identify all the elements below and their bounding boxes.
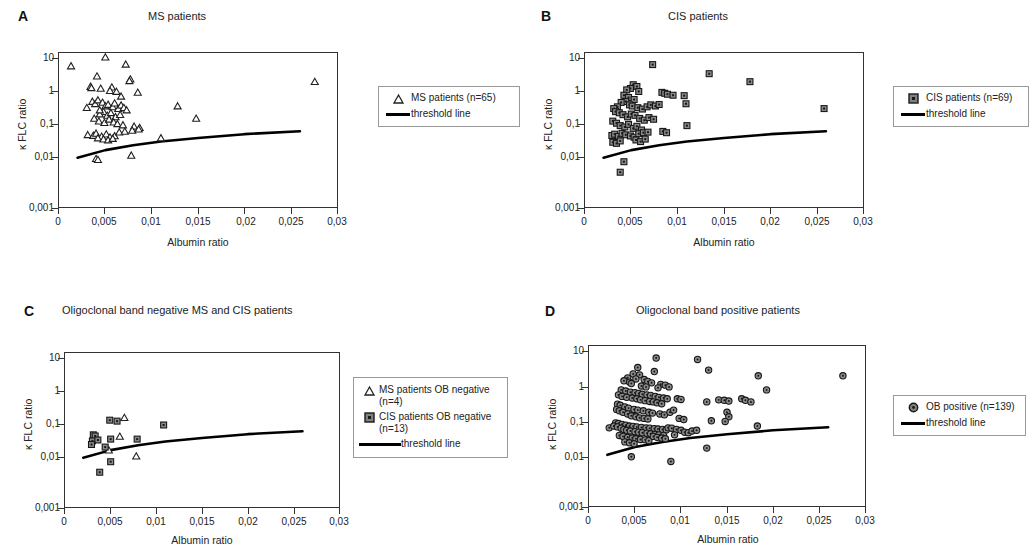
panel-c-x-axis-label: Albumin ratio [132,534,272,544]
panel-c-xtickmark-5 [294,508,295,514]
panel-d-xtick-0: 0 [573,515,603,526]
panel-d-title: Oligoclonal band positive patients [636,304,800,316]
panel-d-xtickmark-6 [865,507,866,513]
panel-d-xtick-3: 0,015 [707,515,747,526]
panel-a-xtickmark-5 [291,208,292,214]
panel-d-ytick-1: 1 [554,381,584,392]
panel-b-plot-area [584,52,864,208]
triangle-open-icon [385,92,411,105]
panel-b-xtick-2: 0,01 [659,216,695,227]
panel-a-xtick-6: 0,03 [319,216,355,227]
panel-d-xtickmark-3 [727,507,728,513]
legend-label: threshold line [411,108,470,120]
panel-d-x-axis-label: Albumin ratio [658,533,798,544]
legend-label: MS patients (n=65) [411,92,496,104]
panel-a-ytick-0: 10 [24,52,54,63]
panel-d-xtickmark-1 [634,507,635,513]
panel-a-xtick-0: 0 [43,216,73,227]
panel-a-plot-area [58,52,338,208]
panel-b-legend: CIS patients (n=69) threshold line [893,86,1029,127]
panel-d-plot-area [588,345,866,507]
panel-d-xtick-4: 0,02 [755,515,791,526]
panel-a-scatter [59,53,337,207]
legend-item: OB positive (n=139) [900,401,1019,414]
panel-b-xtick-0: 0 [569,216,599,227]
triangle-open-icon [359,384,379,397]
panel-c-xtickmark-3 [202,508,203,514]
panel-c-xtickmark-6 [339,508,340,514]
legend-label-cont: (n=13) [379,423,491,435]
panel-a-xtick-4: 0,02 [228,216,264,227]
panel-b-xtickmark-0 [584,208,585,214]
panel-b-letter: B [541,8,551,24]
panel-b-title: CIS patients [668,10,728,22]
threshold-line-icon [359,438,401,451]
legend-label: MS patients OB negative [379,384,490,396]
panel-c-xtick-2: 0,01 [138,516,174,527]
panel-c-scatter [65,353,339,507]
panel-b-xtickmark-5 [817,208,818,214]
panel-a-xtickmark-3 [198,208,199,214]
legend-item: CIS patients (n=69) [900,92,1022,105]
panel-b-xtick-5: 0,025 [797,216,837,227]
panel-b-xtickmark-3 [724,208,725,214]
panel-d-xtickmark-5 [819,507,820,513]
threshold-line-icon [900,108,926,121]
panel-d-scatter [589,346,865,506]
panel-c-ytick-3: 0,01 [19,451,60,462]
panel-c-ytick-1: 1 [30,385,60,396]
panel-b-xtick-1: 0,005 [610,216,650,227]
panel-c-xtick-6: 0,03 [321,516,357,527]
panel-a-ytick-2: 0,1 [18,118,54,129]
square-gray-icon [900,92,926,105]
panel-b-xtickmark-4 [770,208,771,214]
panel-b-ytick-1: 1 [550,85,580,96]
panel-c-title: Oligoclonal band negative MS and CIS pat… [62,304,293,316]
panel-b-xtickmark-2 [677,208,678,214]
legend-item: threshold line [385,108,513,121]
panel-a-xtickmark-4 [244,208,245,214]
panel-b-ytick-4: 0,001 [534,202,580,213]
threshold-line-icon [385,108,411,121]
panel-d-ytick-4: 0,001 [538,501,584,512]
legend-label: CIS patients (n=69) [926,92,1012,104]
circle-gray-icon [900,401,926,414]
panel-d-xtick-1: 0,005 [614,515,654,526]
panel-d-xtickmark-0 [588,507,589,513]
panel-a-x-axis-label: Albumin ratio [128,236,268,248]
legend-label: threshold line [401,438,460,450]
panel-c-xtick-5: 0,025 [274,516,314,527]
panel-a-xtick-3: 0,015 [178,216,218,227]
panel-a-xtickmark-2 [151,208,152,214]
panel-d-ytick-0: 10 [554,345,584,356]
legend-item: MS patients OB negative (n=4) [359,384,502,408]
panel-c-xtick-1: 0,005 [90,516,130,527]
panel-c-ytick-0: 10 [30,352,60,363]
panel-c-legend: MS patients OB negative (n=4) CIS patien… [353,377,508,458]
panel-b-ytick-2: 0,1 [544,118,580,129]
legend-item: CIS patients OB negative (n=13) [359,411,502,435]
panel-a-xtick-2: 0,01 [133,216,169,227]
panel-b-x-axis-label: Albumin ratio [654,236,794,248]
panel-d-xtick-5: 0,025 [799,515,839,526]
legend-item: threshold line [900,417,1019,430]
legend-label-cont: (n=4) [379,396,490,408]
panel-b-scatter [585,53,863,207]
panel-b-ytick-0: 10 [550,52,580,63]
panel-c-plot-area [64,352,340,508]
panel-d-ytick-3: 0,01 [543,451,584,462]
panel-d-xtickmark-4 [773,507,774,513]
legend-label: threshold line [926,108,985,120]
panel-b-xtick-4: 0,02 [752,216,788,227]
panel-d-letter: D [545,303,555,319]
panel-c-xtick-4: 0,02 [230,516,266,527]
legend-label: OB positive (n=139) [926,401,1015,413]
panel-a-xtick-1: 0,005 [84,216,124,227]
panel-c-xtickmark-2 [156,508,157,514]
panel-d-xtickmark-2 [680,507,681,513]
panel-c-xtick-0: 0 [49,516,79,527]
panel-c-ytick-2: 0,1 [24,418,60,429]
panel-c-letter: C [24,303,34,319]
panel-d-xtick-6: 0,03 [847,515,883,526]
legend-label: threshold line [926,417,985,429]
